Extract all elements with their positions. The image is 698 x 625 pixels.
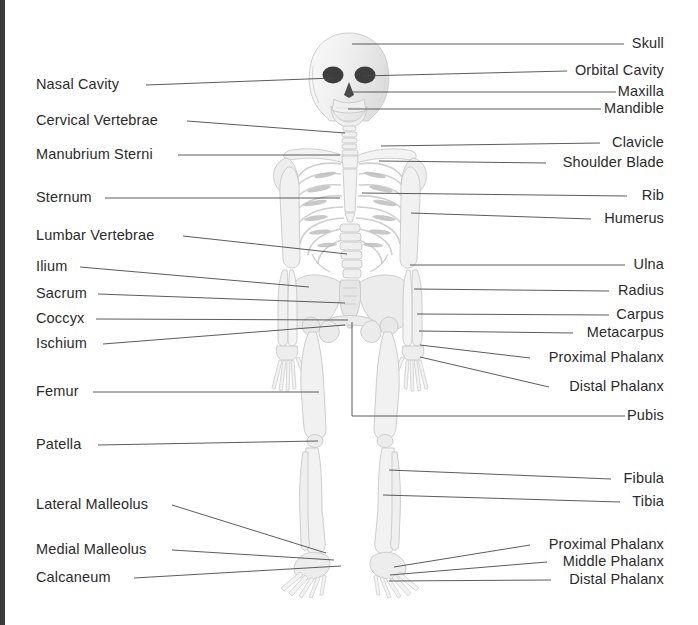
label-mandible: Mandible [0,101,664,116]
label-metacarpus: Metacarpus [0,325,664,340]
patella-left [307,435,323,448]
label-clavicle: Clavicle [0,135,664,150]
patella-right [377,435,393,448]
label-maxilla: Maxilla [0,84,664,99]
label-pubis: Pubis [0,408,664,423]
skeleton-diagram-page: Nasal CavityCervical VertebraeManubrium … [0,0,698,625]
label-fibula: Fibula [0,471,664,486]
label-orbital-cavity: Orbital Cavity [0,63,664,78]
label-lumbar-vertebrae: Lumbar Vertebrae [36,228,154,243]
label-patella: Patella [36,437,81,452]
label-middle-phalanx-foot: Middle Phalanx [0,554,664,569]
label-proximal-phalanx-foot: Proximal Phalanx [0,537,664,552]
label-ulna: Ulna [0,257,664,272]
label-carpus: Carpus [0,307,664,322]
label-distal-phalanx-foot: Distal Phalanx [0,572,664,587]
label-radius: Radius [0,283,664,298]
label-proximal-phalanx: Proximal Phalanx [0,350,664,365]
label-tibia: Tibia [0,494,664,509]
label-shoulder-blade: Shoulder Blade [0,155,664,170]
label-skull: Skull [0,36,664,51]
label-humerus: Humerus [0,211,664,226]
label-distal-phalanx: Distal Phalanx [0,379,664,394]
label-rib: Rib [0,188,664,203]
